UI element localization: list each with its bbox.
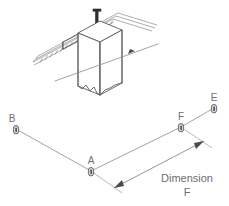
dimension-label-line2: F <box>184 186 191 198</box>
point-label-f: F <box>178 111 184 122</box>
segment-a-f <box>91 127 181 171</box>
segment-f-e <box>181 108 214 127</box>
drawing-svg: B A F E Dimension F <box>0 0 229 206</box>
point-marker-a <box>88 168 93 176</box>
point-marker-b <box>13 126 18 134</box>
column-body <box>78 21 122 95</box>
survey-layout: B A F E Dimension F <box>9 92 218 198</box>
point-label-b: B <box>9 113 16 124</box>
dimension-label-line1: Dimension <box>161 172 213 184</box>
extension-line-a <box>91 171 122 193</box>
isometric-assembly <box>33 9 158 95</box>
point-marker-f <box>178 124 183 132</box>
segment-b-a <box>16 129 91 171</box>
point-label-e: E <box>211 92 218 103</box>
point-label-a: A <box>88 155 95 166</box>
technical-drawing-canvas: B A F E Dimension F <box>0 0 229 206</box>
point-marker-e <box>211 105 216 113</box>
